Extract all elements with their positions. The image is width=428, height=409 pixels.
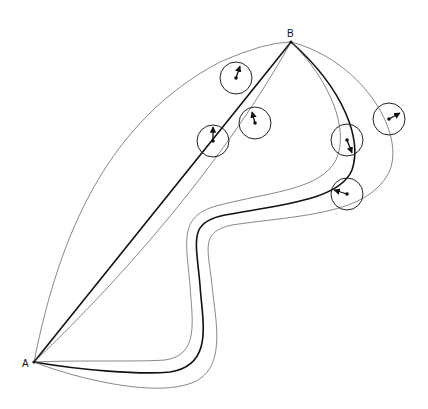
s-curve-outer bbox=[34, 42, 393, 388]
diagram-canvas: A B bbox=[0, 0, 428, 409]
straight-line bbox=[34, 42, 291, 362]
velocity-circle bbox=[331, 124, 363, 156]
point-b-label: B bbox=[287, 28, 294, 39]
s-curve bbox=[34, 42, 355, 373]
point-a bbox=[32, 360, 35, 363]
velocity-circle bbox=[220, 62, 252, 94]
point-a-label: A bbox=[22, 358, 29, 369]
arrow-icon bbox=[252, 112, 255, 123]
velocity-circle bbox=[197, 125, 229, 157]
point-b bbox=[289, 40, 292, 43]
arrow-icon bbox=[334, 190, 347, 194]
arrow-icon bbox=[347, 140, 352, 153]
arrow-icon bbox=[236, 66, 240, 78]
arrow-icon bbox=[389, 113, 400, 119]
path-diagram bbox=[0, 0, 428, 409]
velocity-circle bbox=[239, 107, 271, 139]
